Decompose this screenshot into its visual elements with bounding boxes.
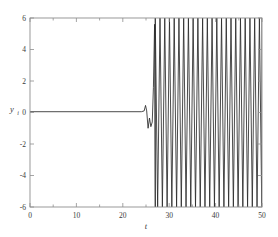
figure-container: 01020304050-6-4-20246 t y i <box>0 0 278 237</box>
y-axis-subscript: i <box>17 110 19 116</box>
y-tick-label: -6 <box>20 203 26 212</box>
x-tick-label: 30 <box>165 211 173 220</box>
y-tick-label: -2 <box>20 140 26 149</box>
y-tick-label: 6 <box>22 14 26 23</box>
y-tick-label: 0 <box>22 108 26 117</box>
x-tick-label: 50 <box>258 211 266 220</box>
x-tick-label: 0 <box>28 211 32 220</box>
y-axis-title: y <box>9 104 14 114</box>
y-tick-label: -4 <box>20 171 26 180</box>
line-chart: 01020304050-6-4-20246 t y i <box>0 0 278 237</box>
x-tick-label: 10 <box>73 211 81 220</box>
y-tick-label: 4 <box>22 45 26 54</box>
x-tick-label: 20 <box>119 211 127 220</box>
x-axis-title: t <box>145 221 148 231</box>
x-tick-label: 40 <box>212 211 220 220</box>
y-tick-label: 2 <box>22 77 26 86</box>
